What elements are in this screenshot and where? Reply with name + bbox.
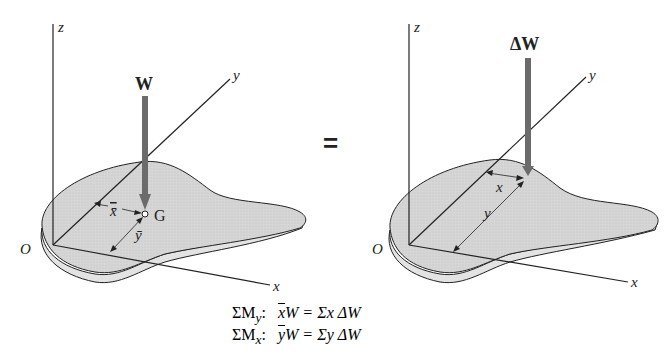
delta-weight-arrow-shaft	[525, 58, 531, 168]
right-y-label: y	[587, 67, 596, 83]
eq-rhs: W = Σx ΔW	[285, 304, 360, 321]
equation-moment-x: ΣMx: yW = Σy ΔW	[232, 326, 360, 348]
eq-bar-var: x	[278, 304, 285, 321]
weight-label: W	[135, 74, 153, 94]
eq-bar-var: y	[278, 326, 285, 343]
equals-sign: =	[323, 128, 338, 158]
right-origin-label: O	[372, 241, 383, 257]
left-x-label: x	[272, 278, 280, 294]
left-y-label: y	[231, 67, 240, 83]
equation-moment-y: ΣMy: xW = Σx ΔW	[232, 304, 360, 326]
right-figure	[389, 24, 658, 283]
y-label: y	[482, 205, 491, 221]
eq-lhs: ΣM	[232, 304, 256, 321]
delta-weight-label: ΔW	[510, 34, 539, 54]
centroid-point	[142, 211, 148, 217]
centroid-label: G	[154, 207, 166, 224]
left-figure	[41, 24, 306, 285]
eq-colon: :	[261, 326, 265, 343]
right-z-label: z	[413, 19, 420, 35]
weight-arrow-shaft	[142, 96, 148, 196]
left-z-label: z	[57, 19, 64, 35]
eq-colon: :	[261, 304, 265, 321]
right-x-label: x	[630, 274, 638, 290]
eq-lhs: ΣM	[232, 326, 256, 343]
ybar-label: ȳ	[133, 227, 142, 243]
x-label: x	[495, 179, 503, 195]
eq-rhs: W = Σy ΔW	[285, 326, 360, 343]
left-origin-label: O	[20, 241, 31, 257]
xbar-label: x̄	[109, 203, 117, 219]
